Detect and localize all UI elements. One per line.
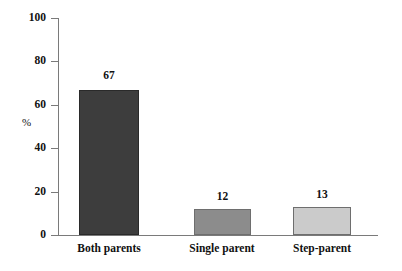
x-axis-category-label: Both parents bbox=[59, 243, 159, 255]
bar-value-label: 67 bbox=[79, 70, 139, 82]
bar-single-parent bbox=[194, 209, 251, 235]
x-axis-line bbox=[58, 235, 378, 236]
y-axis-line bbox=[58, 18, 59, 236]
y-axis-tick-label: 0 bbox=[6, 229, 46, 241]
y-axis-tick-label: 80 bbox=[6, 55, 46, 67]
y-axis-tick bbox=[51, 235, 59, 236]
y-axis-tick-label: 40 bbox=[6, 142, 46, 154]
y-axis-tick-label: 100 bbox=[6, 12, 46, 24]
x-axis-category-label: Single parent bbox=[172, 243, 272, 255]
y-axis-tick bbox=[51, 148, 59, 149]
bar-both-parents bbox=[79, 90, 139, 235]
y-axis-title: % bbox=[22, 117, 31, 128]
y-axis-tick bbox=[51, 192, 59, 193]
y-axis-tick bbox=[51, 18, 59, 19]
y-axis-tick-label: 60 bbox=[6, 99, 46, 111]
x-axis-category-label: Step-parent bbox=[272, 243, 372, 255]
bar-chart: 100 80 60 40 20 0 % 67 12 13 Both parent… bbox=[0, 0, 402, 271]
y-axis-tick-label: 20 bbox=[6, 186, 46, 198]
y-axis-tick bbox=[51, 61, 59, 62]
bar-value-label: 12 bbox=[194, 191, 251, 203]
y-axis-tick bbox=[51, 105, 59, 106]
bar-step-parent bbox=[293, 207, 351, 235]
bar-value-label: 13 bbox=[293, 189, 351, 201]
